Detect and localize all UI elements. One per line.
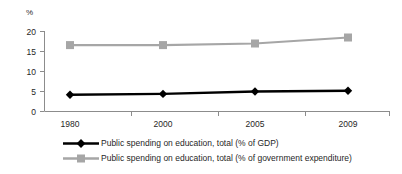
series-gdp [66,87,352,99]
diamond-marker-icon [63,138,99,149]
series-line [70,91,348,95]
legend-label-gdp: Public spending on education, total (% o… [101,138,279,149]
legend-label-govexp: Public spending on education, total (% o… [101,153,352,164]
chart-legend: Public spending on education, total (% o… [0,136,402,166]
x-tick-label-1980: 1980 [61,119,80,129]
legend-item-govexp[interactable]: Public spending on education, total (% o… [0,151,402,166]
data-point-square [159,41,167,49]
legend-item-gdp[interactable]: Public spending on education, total (% o… [0,136,402,151]
data-point-square [66,41,74,49]
y-axis-ticks [40,32,45,112]
plot-area: 20 15 10 5 0 1980 2000 2005 2009 [0,0,402,136]
x-axis-ticks [132,112,390,117]
y-tick-label-15: 15 [27,47,37,57]
y-tick-label-10: 10 [27,67,37,77]
chart-container: % 20 15 10 5 0 1980 2000 2005 200 [0,0,402,174]
x-tick-label-2009: 2009 [339,119,358,129]
series-line [70,38,348,46]
series-layer [66,34,352,99]
data-point-diamond [344,87,352,95]
data-point-diamond [159,90,167,98]
y-tick-label-20: 20 [27,27,37,37]
series-govexp [66,34,352,50]
x-tick-label-2000: 2000 [154,119,173,129]
data-point-square [251,40,259,48]
y-tick-label-0: 0 [31,107,36,117]
data-point-diamond [251,87,259,95]
square-marker-icon [63,153,99,164]
data-point-square [344,34,352,42]
y-tick-label-5: 5 [31,87,36,97]
x-tick-label-2005: 2005 [246,119,265,129]
data-point-diamond [66,91,74,99]
